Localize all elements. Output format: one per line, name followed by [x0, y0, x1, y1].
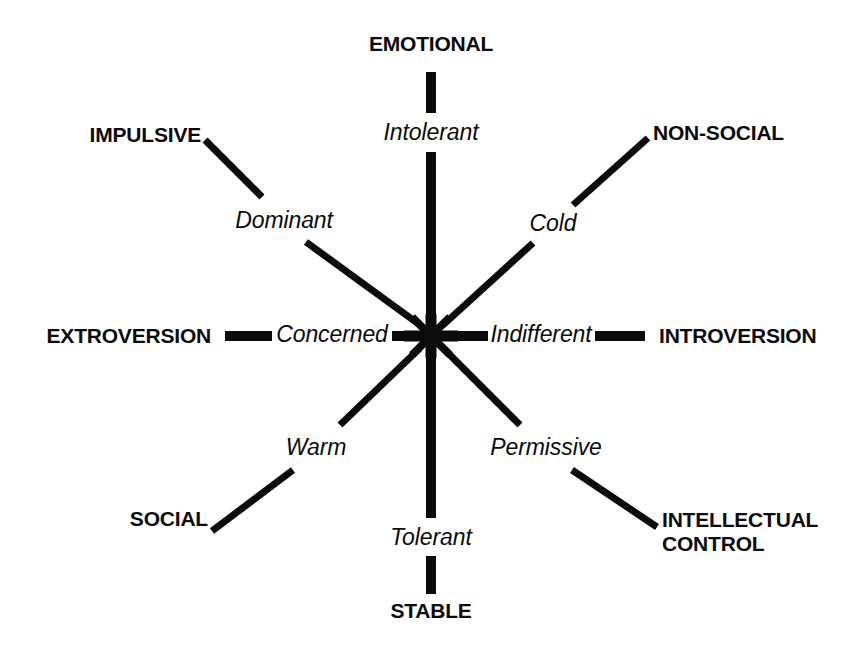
axis-diag-nwse-inner-se — [443, 348, 520, 425]
trait-label-indifferent: Indifferent — [490, 323, 591, 346]
pole-label-introversion: INTROVERSION — [659, 325, 816, 346]
pole-label-intellectual-control-line1: INTELLECTUAL — [662, 508, 818, 531]
diagram-canvas: EMOTIONAL STABLE EXTROVERSION INTROVERSI… — [0, 0, 860, 670]
pole-label-non-social: NON-SOCIAL — [653, 122, 784, 143]
trait-label-permissive: Permissive — [490, 436, 601, 459]
axis-diag-nesw-inner-ne — [443, 243, 533, 325]
axis-diag-nesw-outer-sw — [212, 470, 293, 531]
axis-diag-nesw-inner-sw — [340, 348, 420, 425]
axis-diag-nesw-outer-ne — [573, 138, 648, 205]
axis-diag-nwse-outer-nw — [205, 140, 262, 197]
pole-label-intellectual-control: INTELLECTUALCONTROL — [662, 508, 818, 555]
trait-label-concerned: Concerned — [276, 323, 388, 346]
trait-label-intolerant: Intolerant — [384, 121, 479, 144]
trait-label-cold: Cold — [530, 212, 577, 235]
pole-label-intellectual-control-line2: CONTROL — [662, 532, 764, 555]
pole-label-impulsive: IMPULSIVE — [90, 124, 201, 145]
trait-label-warm: Warm — [286, 436, 347, 459]
trait-label-tolerant: Tolerant — [390, 526, 471, 549]
pole-label-emotional: EMOTIONAL — [369, 33, 493, 54]
axis-diag-nwse-inner-nw — [306, 242, 420, 325]
pole-label-stable: STABLE — [390, 600, 471, 621]
trait-label-dominant: Dominant — [235, 209, 333, 232]
pole-label-extroversion: EXTROVERSION — [47, 325, 211, 346]
pole-label-social: SOCIAL — [130, 508, 208, 529]
axis-diag-nwse-outer-se — [572, 470, 657, 527]
center-hub — [404, 314, 458, 358]
